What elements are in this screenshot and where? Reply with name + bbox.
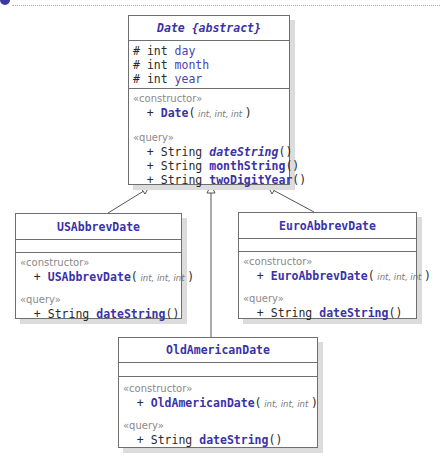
constructor-oldamericandate: + OldAmericanDate( int, int, int ) (123, 396, 313, 411)
class-name: OldAmericanDate (119, 338, 317, 363)
class-name: USAbbrevDate (16, 214, 181, 240)
constructor-euroabbrevdate: + EuroAbbrevDate( int, int, int ) (243, 269, 412, 284)
class-date: Date {abstract} # int day # int month # … (128, 15, 290, 185)
stereotype-constructor: «constructor» (123, 382, 313, 396)
us-to-date-line (108, 189, 147, 213)
stereotype-query: «query» (243, 292, 412, 306)
method-datestring: + String dateString() (123, 433, 313, 447)
class-usabbrevdate: USAbbrevDate «constructor» + USAbbrevDat… (15, 213, 182, 319)
method-datestring: + String dateString() (20, 307, 177, 321)
stereotype-query: «query» (133, 131, 285, 145)
class-name: EuroAbbrevDate (239, 213, 416, 239)
operations-compartment: «constructor» + EuroAbbrevDate( int, int… (239, 252, 416, 324)
constructor-date: + Date( int, int, int ) (133, 106, 285, 121)
attribute-year: # int year (133, 72, 285, 86)
stereotype-constructor: «constructor» (243, 255, 412, 269)
attributes-compartment: # int day # int month # int year (129, 41, 289, 89)
class-name: Date {abstract} (129, 16, 289, 41)
method-twodigityear: + String twoDigitYear() (133, 173, 285, 187)
attributes-compartment-empty (119, 363, 317, 377)
stereotype-constructor: «constructor» (133, 92, 285, 106)
stereotype-query: «query» (123, 419, 313, 433)
class-euroabbrevdate: EuroAbbrevDate «constructor» + EuroAbbre… (238, 212, 417, 319)
stereotype-query: «query» (20, 293, 177, 307)
euro-to-date-line (273, 190, 314, 212)
attributes-compartment-empty (16, 240, 181, 253)
attributes-compartment-empty (239, 239, 416, 252)
operations-compartment: «constructor» + Date( int, int, int ) «q… (129, 89, 289, 191)
method-datestring: + String dateString() (243, 306, 412, 320)
method-datestring: + String dateString() (133, 145, 285, 159)
operations-compartment: «constructor» + OldAmericanDate( int, in… (119, 377, 317, 451)
attribute-day: # int day (133, 44, 285, 58)
uml-diagram-canvas: Date {abstract} # int day # int month # … (0, 0, 440, 467)
class-oldamericandate: OldAmericanDate «constructor» + OldAmeri… (118, 337, 318, 448)
attribute-month: # int month (133, 58, 285, 72)
constructor-usabbrevdate: + USAbbrevDate( int, int, int ) (20, 270, 177, 285)
method-monthstring: + String monthString() (133, 159, 285, 173)
operations-compartment: «constructor» + USAbbrevDate( int, int, … (16, 253, 181, 325)
stereotype-constructor: «constructor» (20, 256, 177, 270)
